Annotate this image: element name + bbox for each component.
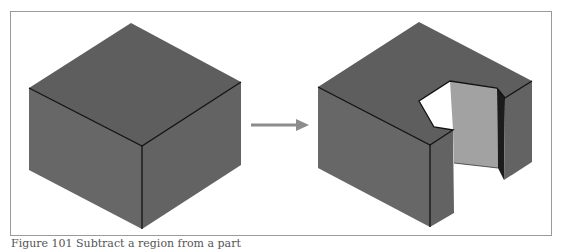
notched-block: [318, 22, 532, 227]
solid-block: [29, 23, 241, 229]
cut-inner-face: [450, 81, 498, 168]
cut-shadow-face: [497, 88, 505, 180]
figure-caption: Figure 101 Subtract a region from a part: [11, 238, 241, 250]
transform-arrow-icon: [251, 119, 309, 131]
notched-narrow-face: [430, 130, 454, 227]
